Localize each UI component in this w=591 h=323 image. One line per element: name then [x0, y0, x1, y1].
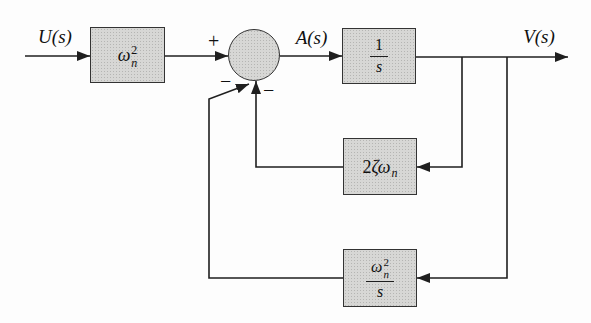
position-feedback-return-wire	[209, 84, 343, 278]
velocity-feedback-tap-wire	[417, 57, 462, 167]
input-signal-label: U(s)	[31, 27, 79, 46]
sum-minus-sign-velocity-feedback: −	[263, 80, 274, 100]
output-signal-label: V(s)	[514, 27, 564, 46]
intermediate-signal-label: A(s)	[289, 28, 334, 47]
control-block-diagram: ω2n 1 s 2ζωn ω2n s U(s) A(s) V(s)	[0, 0, 591, 323]
sum-minus-sign-position-feedback: −	[220, 71, 231, 91]
sum-plus-sign: +	[208, 31, 219, 51]
wiring-layer	[0, 0, 591, 323]
